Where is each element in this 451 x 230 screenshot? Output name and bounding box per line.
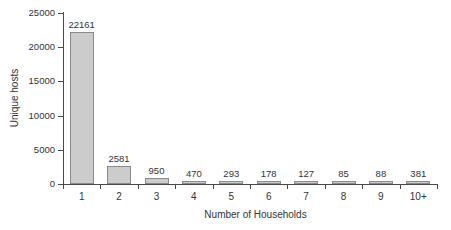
- x-axis-title: Number of Households: [0, 209, 451, 220]
- bar: [70, 32, 94, 184]
- bar-value-label: 127: [298, 168, 314, 179]
- y-axis-tick: [58, 47, 63, 48]
- bar: [406, 181, 430, 184]
- x-axis-tick: [287, 184, 288, 189]
- x-axis-tick-label: 3: [154, 191, 160, 202]
- bar: [219, 181, 243, 184]
- y-axis-tick-label: 15000: [29, 77, 55, 87]
- bar-value-label: 85: [338, 168, 349, 179]
- x-axis-tick: [63, 184, 64, 189]
- bar-value-label: 950: [149, 165, 165, 176]
- x-axis-tick-label: 6: [266, 191, 272, 202]
- bar: [182, 181, 206, 184]
- x-axis-tick-label: 5: [229, 191, 235, 202]
- x-axis-tick-label: 1: [79, 191, 85, 202]
- bar: [145, 178, 169, 184]
- x-axis-tick: [175, 184, 176, 189]
- bar-value-label: 2581: [109, 153, 130, 164]
- x-axis-tick: [362, 184, 363, 189]
- x-axis-tick: [400, 184, 401, 189]
- bar-value-label: 470: [186, 168, 202, 179]
- bar-value-label: 88: [376, 168, 387, 179]
- bar: [369, 181, 393, 184]
- x-axis-tick: [138, 184, 139, 189]
- x-axis-tick-label: 8: [341, 191, 347, 202]
- bar: [332, 181, 356, 184]
- y-axis-tick: [58, 150, 63, 151]
- y-axis-tick-label: 10000: [29, 111, 55, 121]
- y-axis-tick: [58, 81, 63, 82]
- x-axis-tick: [437, 184, 438, 189]
- bar: [257, 181, 281, 184]
- x-axis-tick-label: 7: [303, 191, 309, 202]
- x-axis-tick: [325, 184, 326, 189]
- bar: [294, 181, 318, 184]
- y-axis-tick-label: 0: [50, 179, 55, 189]
- x-axis-tick-label: 9: [378, 191, 384, 202]
- bar-value-label: 178: [261, 168, 277, 179]
- y-axis-tick-label: 25000: [29, 8, 55, 18]
- y-axis-title: Unique hosts: [9, 69, 20, 127]
- x-axis-tick-label: 10+: [410, 191, 427, 202]
- x-axis-tick: [250, 184, 251, 189]
- x-axis-tick-label: 2: [116, 191, 122, 202]
- bar-value-label: 22161: [68, 19, 94, 30]
- bar-value-label: 381: [410, 168, 426, 179]
- y-axis-tick-label: 5000: [34, 145, 55, 155]
- x-axis-tick: [100, 184, 101, 189]
- x-axis-tick: [213, 184, 214, 189]
- x-axis-tick-label: 4: [191, 191, 197, 202]
- y-axis-tick: [58, 116, 63, 117]
- bar-chart: Unique hosts 0500010000150002000025000 2…: [0, 0, 451, 230]
- bar-value-label: 293: [223, 168, 239, 179]
- y-axis-tick-label: 20000: [29, 42, 55, 52]
- y-axis-tick: [58, 13, 63, 14]
- bar: [107, 166, 131, 184]
- y-axis-line: [63, 12, 64, 185]
